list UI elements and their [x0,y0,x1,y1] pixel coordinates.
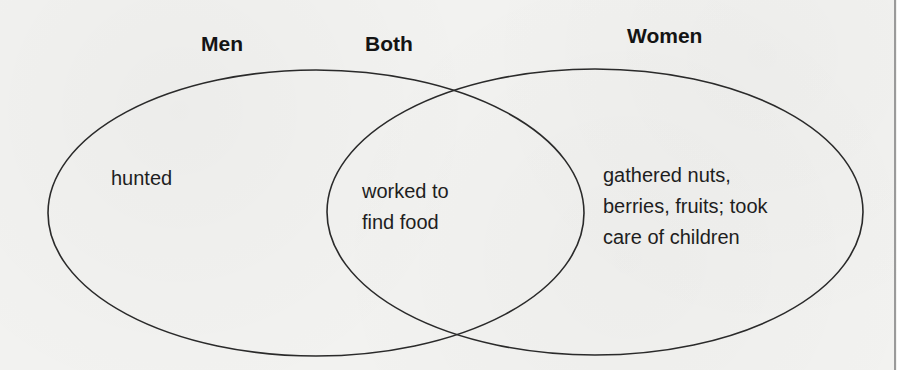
women-only-line: care of children [603,222,768,253]
venn-diagram-canvas: Men Both Women hunted worked to find foo… [0,0,897,370]
page-edge-divider [894,0,896,370]
overlap-line: find food [362,207,449,238]
men-only-line: hunted [111,163,172,194]
heading-men: Men [201,32,243,56]
women-only-line: berries, fruits; took [603,191,768,222]
heading-women: Women [627,24,702,48]
women-only-region: gathered nuts, berries, fruits; took car… [603,160,768,253]
men-circle [48,70,584,356]
heading-both: Both [365,32,413,56]
men-only-region: hunted [111,163,172,194]
women-only-line: gathered nuts, [603,160,768,191]
overlap-region: worked to find food [362,176,449,238]
overlap-line: worked to [362,176,449,207]
